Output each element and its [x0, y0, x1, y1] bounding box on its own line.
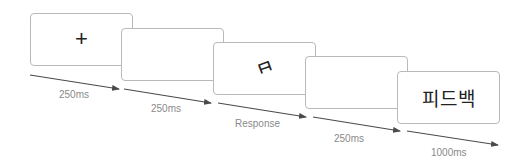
arrow-1: [30, 75, 119, 89]
duration-label-4: 250ms: [334, 133, 364, 144]
duration-label-2: 250ms: [151, 103, 181, 114]
arrow-5: [407, 131, 498, 145]
fixation-cross: +: [75, 28, 88, 50]
arrow-4: [313, 117, 400, 131]
feedback-text: 피드백: [422, 84, 476, 111]
duration-label-1: 250ms: [59, 89, 89, 100]
screen-fixation: +: [30, 13, 133, 66]
arrow-2: [124, 89, 211, 103]
screen-feedback: 피드백: [397, 71, 500, 124]
duration-label-5: 1000ms: [431, 147, 467, 158]
screen-stimulus: ㅂ: [213, 42, 316, 95]
duration-label-3: Response: [235, 118, 280, 129]
screen-blank-1: [121, 28, 224, 81]
stimulus-character: ㅂ: [251, 52, 278, 85]
arrow-3: [218, 103, 306, 117]
screen-blank-2: [305, 56, 408, 109]
